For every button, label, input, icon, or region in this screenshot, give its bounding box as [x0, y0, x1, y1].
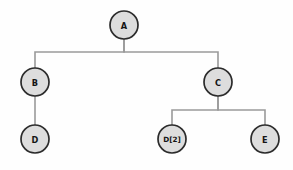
edge-c-to-d2 [172, 96, 218, 125]
node-label-b: B [32, 78, 38, 88]
node-d[interactable]: D [21, 125, 49, 153]
node-label-e: E [262, 135, 268, 145]
node-b[interactable]: B [21, 68, 49, 96]
node-e[interactable]: E [251, 125, 279, 153]
node-label-d: D [32, 135, 39, 145]
tree-graph: ABCDD[2]E [0, 0, 293, 170]
nodes-group: ABCDD[2]E [21, 11, 279, 153]
node-c[interactable]: C [204, 68, 232, 96]
node-d2[interactable]: D[2] [158, 125, 186, 153]
node-a[interactable]: A [110, 11, 138, 39]
diagram-canvas: ABCDD[2]E [0, 0, 293, 170]
node-label-d2: D[2] [163, 135, 181, 144]
edge-a-to-c [124, 39, 218, 68]
edge-c-to-e [218, 96, 265, 125]
node-label-c: C [215, 78, 221, 88]
node-label-a: A [121, 21, 128, 31]
edge-a-to-b [35, 39, 124, 68]
